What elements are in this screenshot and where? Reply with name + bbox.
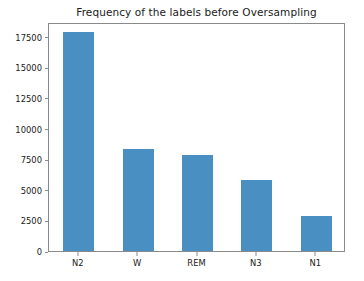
y-tick-label: 7500	[21, 154, 42, 166]
y-axis: 025005000750010000125001500017500	[0, 23, 48, 253]
bars-layer	[49, 24, 344, 251]
x-axis: N2WREMN3N1	[48, 252, 345, 280]
y-tick-label: 12500	[15, 93, 42, 105]
x-tick-label: N2	[72, 258, 84, 268]
chart-title: Frequency of the labels before Oversampl…	[48, 6, 345, 18]
y-tick-label: 17500	[15, 32, 42, 44]
x-tick-mark	[255, 252, 256, 256]
x-tick-mark	[77, 252, 78, 256]
y-tick-label: 2500	[21, 215, 42, 227]
x-tick-label: W	[133, 258, 141, 268]
bar-n1	[301, 216, 332, 252]
x-tick-label: N1	[310, 258, 322, 268]
plot-area	[48, 23, 345, 252]
y-tick-label: 15000	[15, 62, 42, 74]
y-tick-label: 10000	[15, 124, 42, 136]
x-tick-mark	[196, 252, 197, 256]
x-tick-mark	[315, 252, 316, 256]
bar-n3	[241, 180, 272, 251]
y-tick-label: 5000	[21, 185, 42, 197]
x-tick-label: REM	[187, 258, 205, 268]
y-tick-label: 0	[37, 246, 42, 258]
bar-rem	[182, 155, 213, 251]
x-tick-mark	[137, 252, 138, 256]
bar-chart-figure: Frequency of the labels before Oversampl…	[0, 0, 364, 281]
bar-n2	[63, 32, 94, 251]
x-tick-label: N3	[250, 258, 262, 268]
bar-w	[123, 149, 154, 251]
